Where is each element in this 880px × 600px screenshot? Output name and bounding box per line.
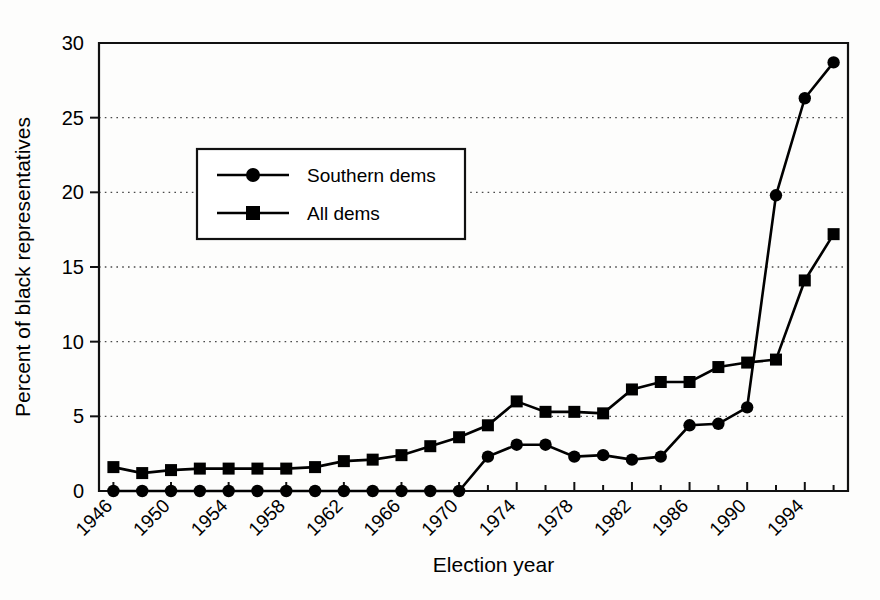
y-tick-label-0: 0	[73, 480, 84, 502]
data-point	[251, 485, 263, 497]
data-point	[597, 407, 609, 419]
x-tick-label-1962: 1962	[302, 495, 347, 540]
data-point	[453, 431, 465, 443]
x-tick-label-1974: 1974	[475, 495, 520, 540]
data-point	[712, 361, 724, 373]
data-point	[223, 463, 235, 475]
line-chart: 051015202530 194619501954195819621966197…	[0, 0, 880, 600]
chart-legend: Southern demsAll dems	[197, 149, 465, 239]
data-point	[424, 440, 436, 452]
data-point	[712, 418, 724, 430]
x-tick-label-1966: 1966	[360, 495, 405, 540]
x-axis-title: Election year	[433, 553, 554, 576]
x-tick-label-1982: 1982	[590, 495, 635, 540]
legend-marker-square-icon	[246, 206, 260, 220]
data-point	[367, 454, 379, 466]
legend-box	[197, 149, 465, 239]
x-tick-label-1954: 1954	[187, 495, 232, 540]
data-point	[338, 455, 350, 467]
data-point	[165, 464, 177, 476]
x-tick-label-1990: 1990	[705, 495, 750, 540]
data-point	[511, 439, 523, 451]
y-tick-label-20: 20	[62, 181, 84, 203]
y-tick-label-30: 30	[62, 32, 84, 54]
data-point	[741, 357, 753, 369]
data-point	[770, 354, 782, 366]
series-line	[113, 234, 833, 473]
y-tick-label-5: 5	[73, 405, 84, 427]
data-point	[828, 228, 840, 240]
data-series-layer	[107, 56, 840, 497]
data-point	[309, 461, 321, 473]
data-point	[568, 406, 580, 418]
data-point	[540, 406, 552, 418]
x-tick-label-1970: 1970	[417, 495, 462, 540]
data-point	[655, 376, 667, 388]
data-point	[136, 485, 148, 497]
series-line	[113, 62, 833, 491]
data-point	[683, 419, 695, 431]
data-point	[482, 450, 494, 462]
data-point	[280, 463, 292, 475]
y-axis-ticks: 051015202530	[62, 32, 99, 502]
data-point	[655, 450, 667, 462]
plot-frame	[99, 43, 848, 491]
data-point	[770, 189, 782, 201]
x-tick-label-1994: 1994	[763, 495, 808, 540]
data-point	[222, 485, 234, 497]
legend-label: Southern dems	[307, 165, 436, 186]
series-all-dems	[107, 228, 839, 479]
data-point	[684, 376, 696, 388]
chart-figure: 051015202530 194619501954195819621966197…	[0, 0, 880, 600]
data-point	[194, 463, 206, 475]
data-point	[107, 461, 119, 473]
data-point	[597, 449, 609, 461]
data-point	[453, 485, 465, 497]
y-axis-title: Percent of black representatives	[11, 117, 34, 417]
y-tick-label-15: 15	[62, 256, 84, 278]
data-point	[568, 450, 580, 462]
data-point	[626, 453, 638, 465]
y-tick-label-10: 10	[62, 331, 84, 353]
data-point	[395, 485, 407, 497]
data-point	[827, 56, 839, 68]
legend-label: All dems	[307, 203, 380, 224]
legend-marker-circle-icon	[246, 168, 260, 182]
x-tick-label-1950: 1950	[129, 495, 174, 540]
data-point	[626, 383, 638, 395]
data-point	[395, 449, 407, 461]
data-point	[309, 485, 321, 497]
data-point	[482, 419, 494, 431]
data-point	[511, 395, 523, 407]
data-point	[799, 92, 811, 104]
data-point	[741, 401, 753, 413]
x-tick-label-1978: 1978	[532, 495, 577, 540]
x-tick-label-1986: 1986	[648, 495, 693, 540]
data-point	[338, 485, 350, 497]
data-point	[165, 485, 177, 497]
data-point	[366, 485, 378, 497]
x-tick-label-1958: 1958	[244, 495, 289, 540]
data-point	[280, 485, 292, 497]
data-point	[251, 463, 263, 475]
y-tick-label-25: 25	[62, 107, 84, 129]
data-point	[799, 274, 811, 286]
data-point	[539, 439, 551, 451]
data-point	[194, 485, 206, 497]
data-point	[107, 485, 119, 497]
axis-frame	[99, 43, 848, 491]
data-point	[136, 467, 148, 479]
data-point	[424, 485, 436, 497]
